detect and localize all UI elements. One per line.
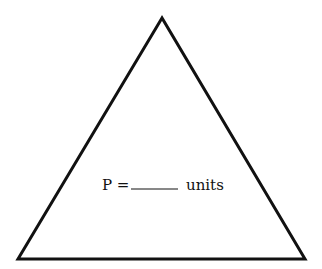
triangle-diagram: P = units bbox=[0, 0, 322, 269]
units-label: units bbox=[186, 176, 224, 194]
perimeter-prefix: P = bbox=[102, 176, 129, 194]
triangle-shape bbox=[18, 18, 305, 259]
